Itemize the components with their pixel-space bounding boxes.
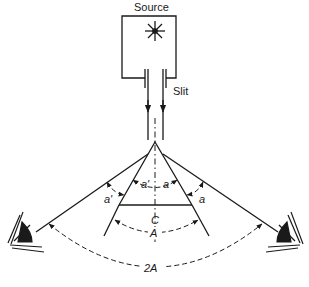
reflected-ray-right: [163, 154, 278, 232]
label-2A: 2A: [143, 262, 157, 274]
right-eye-icon: [266, 212, 303, 252]
label-a-prime-inner: a': [141, 178, 150, 190]
label-c: C: [151, 214, 159, 226]
label-a-outer: a: [199, 193, 205, 205]
label-A: A: [149, 227, 157, 239]
label-a-inner: a: [163, 178, 169, 190]
star-light-icon: [145, 21, 165, 41]
label-a-prime-outer: a': [104, 193, 113, 205]
reflected-ray-left: [36, 154, 148, 232]
left-eye-icon: [8, 212, 44, 252]
source-label: Source: [134, 1, 169, 13]
prism-diagram: Slit Source a' a' a a C A: [0, 0, 309, 287]
slit-label: Slit: [173, 85, 188, 97]
